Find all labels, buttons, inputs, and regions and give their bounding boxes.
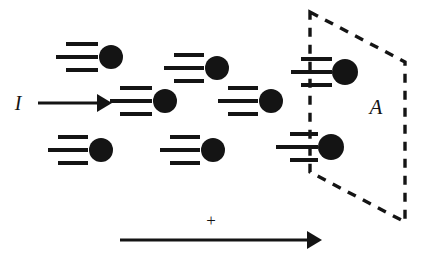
particle-3 xyxy=(110,88,177,114)
area-label: A xyxy=(368,95,383,119)
charge-carrier-dot xyxy=(89,138,113,162)
figure-canvas: I A + xyxy=(0,0,424,272)
positive-direction-arrow xyxy=(120,231,322,249)
particle-7 xyxy=(291,59,358,85)
charge-carrier-dot xyxy=(205,56,229,80)
current-label: I xyxy=(14,92,23,114)
charge-carrier-dot xyxy=(259,89,283,113)
positive-axis-arrow-head xyxy=(307,231,322,249)
particle-2 xyxy=(48,137,113,163)
current-arrow-head xyxy=(97,94,112,112)
particle-1 xyxy=(56,44,123,70)
charge-carrier-dot xyxy=(99,45,123,69)
charge-carrier-dot xyxy=(332,59,358,85)
charge-carrier-dot xyxy=(201,138,225,162)
particle-6 xyxy=(218,88,283,114)
area-boundary xyxy=(310,12,405,222)
physics-diagram: I A + xyxy=(0,0,424,272)
area-parallelogram xyxy=(310,12,405,222)
charge-carrier-dot xyxy=(318,134,344,160)
particle-5 xyxy=(160,137,225,163)
particle-4 xyxy=(164,55,229,81)
current-direction-arrow xyxy=(38,94,112,112)
charge-carrier-dot xyxy=(153,89,177,113)
positive-sign-label: + xyxy=(206,211,216,230)
